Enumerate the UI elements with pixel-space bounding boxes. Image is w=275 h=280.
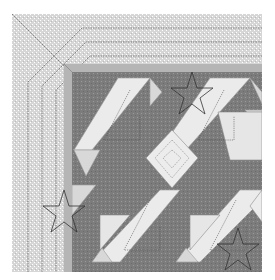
quilt-illustration bbox=[0, 0, 275, 280]
